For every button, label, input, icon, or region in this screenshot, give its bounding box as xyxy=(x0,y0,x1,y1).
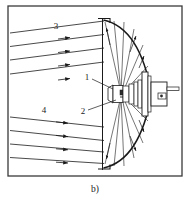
headlamp-ray-diagram: 1 2 3 4 b) xyxy=(0,0,190,200)
label-3: 3 xyxy=(54,21,59,31)
incident-ray xyxy=(10,35,104,47)
bulb-collar xyxy=(123,86,129,102)
headlamp-bulb-assembly xyxy=(108,72,179,116)
ray-arrow xyxy=(56,122,68,123)
mounting-flange xyxy=(142,72,148,116)
incident-ray xyxy=(10,62,104,74)
reflected-ray xyxy=(122,29,134,92)
ray-arrow xyxy=(58,79,70,81)
terminal-contact xyxy=(160,95,163,98)
figure-caption: b) xyxy=(91,184,99,195)
incident-ray-bundle-lower xyxy=(10,117,104,164)
terminal-pin-upper xyxy=(167,87,179,91)
bulb-base-b xyxy=(134,82,138,106)
reflected-arrow xyxy=(107,143,111,159)
reflected-ray xyxy=(121,96,124,166)
label-1: 1 xyxy=(85,72,90,82)
incident-ray-arrowheads-upper xyxy=(58,38,70,81)
ray-arrow xyxy=(56,135,68,136)
reflected-ray xyxy=(122,97,134,158)
incident-ray xyxy=(10,48,104,60)
incident-ray xyxy=(10,144,104,152)
figure-page: 1 2 3 4 b) xyxy=(0,0,190,200)
bulb-base-c xyxy=(138,80,142,108)
label-2: 2 xyxy=(81,106,86,116)
ray-arrow xyxy=(56,162,68,163)
bulb-base-a xyxy=(129,84,134,104)
label-4: 4 xyxy=(42,105,47,115)
incident-ray-arrowheads-lower xyxy=(56,122,68,163)
reflected-ray xyxy=(114,21,121,93)
ray-arrow xyxy=(58,65,70,67)
reflected-ray xyxy=(114,96,121,166)
reflected-arrow xyxy=(107,28,111,45)
